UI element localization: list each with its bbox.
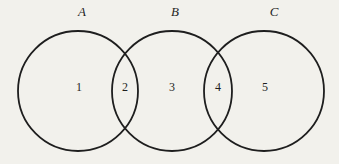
venn-diagram-figure: A B C 1 2 3 4 5 bbox=[0, 0, 339, 164]
region-label-3: 3 bbox=[169, 80, 175, 94]
region-label-1: 1 bbox=[76, 80, 82, 94]
region-label-5: 5 bbox=[262, 80, 268, 94]
set-label-c: C bbox=[270, 4, 279, 19]
region-label-2: 2 bbox=[122, 80, 128, 94]
region-label-4: 4 bbox=[215, 80, 221, 94]
venn-diagram: A B C 1 2 3 4 5 bbox=[0, 0, 339, 164]
set-label-b: B bbox=[171, 4, 179, 19]
set-label-a: A bbox=[77, 4, 86, 19]
